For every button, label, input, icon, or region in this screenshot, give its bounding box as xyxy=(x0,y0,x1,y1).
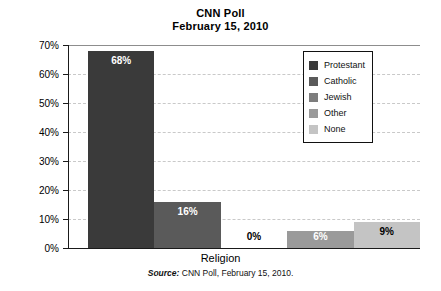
legend-swatch-icon xyxy=(309,61,318,70)
legend-item-label: Other xyxy=(324,109,347,118)
source-prefix: Source: xyxy=(148,268,180,278)
y-axis-label: 40% xyxy=(39,127,59,138)
legend-swatch-icon xyxy=(309,93,318,102)
source-text: CNN Poll, February 15, 2010. xyxy=(182,268,294,278)
legend-item[interactable]: Jewish xyxy=(309,89,365,105)
bar-value-label: 68% xyxy=(88,56,154,66)
y-axis-label: 70% xyxy=(39,40,59,51)
bar-slot[interactable]: 68% xyxy=(88,45,154,248)
chart-title-block: CNN Poll February 15, 2010 xyxy=(0,7,441,33)
legend-item-label: Catholic xyxy=(324,77,357,86)
legend-item[interactable]: Other xyxy=(309,105,365,121)
y-axis-label: 50% xyxy=(39,98,59,109)
bar-value-label: 9% xyxy=(354,227,420,237)
legend-item[interactable]: Protestant xyxy=(309,57,365,73)
bar-slot[interactable]: 0% xyxy=(221,45,287,248)
chart-subtitle: February 15, 2010 xyxy=(0,20,441,33)
bar-value-label: 16% xyxy=(154,207,220,217)
bar-slot[interactable]: 16% xyxy=(154,45,220,248)
legend-item-label: Protestant xyxy=(324,61,365,70)
y-axis-label: 20% xyxy=(39,185,59,196)
source-note: Source: CNN Poll, February 15, 2010. xyxy=(0,268,441,278)
x-axis-title: Religion xyxy=(0,252,441,264)
bar[interactable] xyxy=(88,51,154,248)
y-axis-label: 30% xyxy=(39,156,59,167)
x-axis-line xyxy=(68,248,420,249)
legend-item-label: None xyxy=(324,125,346,134)
bar-value-label: 6% xyxy=(287,232,353,242)
legend-swatch-icon xyxy=(309,77,318,86)
legend: ProtestantCatholicJewishOtherNone xyxy=(303,51,373,143)
chart-container: CNN Poll February 15, 2010 0%10%20%30%40… xyxy=(0,0,441,291)
legend-swatch-icon xyxy=(309,125,318,134)
legend-item-label: Jewish xyxy=(324,93,352,102)
legend-item[interactable]: None xyxy=(309,121,365,137)
legend-swatch-icon xyxy=(309,109,318,118)
bar-value-label: 0% xyxy=(221,232,287,242)
page-title: CNN Poll xyxy=(0,7,441,20)
y-axis-line xyxy=(68,45,69,248)
y-axis-label: 10% xyxy=(39,214,59,225)
y-axis-label: 60% xyxy=(39,69,59,80)
legend-item[interactable]: Catholic xyxy=(309,73,365,89)
